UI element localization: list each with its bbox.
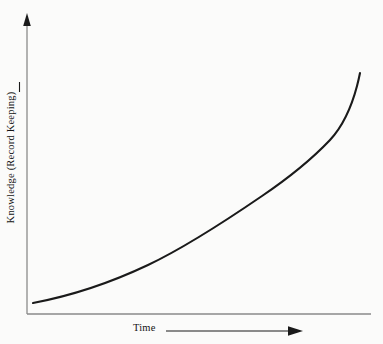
y-axis-arrow-up-icon (23, 13, 31, 26)
chart-figure: Knowledge (Record Keeping) Time (0, 0, 383, 344)
y-axis-label-text: Knowledge (Record Keeping) (6, 91, 17, 223)
x-axis-label: Time (133, 322, 156, 333)
chart-canvas (0, 0, 383, 344)
y-axis-label: Knowledge (Record Keeping) (0, 0, 22, 314)
x-label-arrow-right-icon (288, 326, 303, 336)
knowledge-growth-curve (33, 73, 360, 303)
